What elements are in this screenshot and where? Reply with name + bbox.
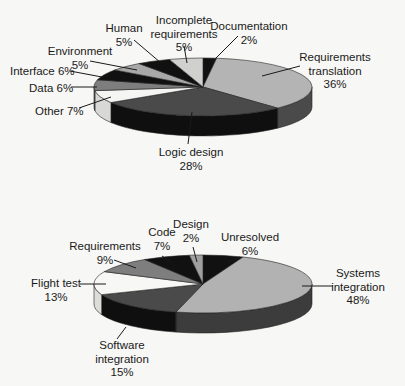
slice-label-flight-test: Flight test13% [31,277,82,303]
slice-label-systems-integration: Systemsintegration48% [331,267,385,306]
slice-label-requirements: Requirements9% [69,240,141,266]
leader-line-documentation [212,36,238,62]
slice-label-code: Code7% [148,226,176,252]
leader-line-software-integration [117,327,126,339]
pie-top-faces [94,58,312,116]
pie-chart-error-discovery: Unresolved6%Systemsintegration48%Softwar… [31,218,385,378]
slice-label-unresolved: Unresolved6% [221,231,279,257]
pie-chart-error-sources: Documentation2%Requirementstranslation36… [10,14,371,172]
slice-label-interface: Interface 6% [10,65,75,77]
slice-label-other: Other 7% [35,105,84,117]
pie-top-faces [94,255,312,313]
leader-line-interface [70,71,102,77]
slice-label-documentation: Documentation2% [210,20,287,46]
slice-label-incomplete-requirements: Incompleterequirements5% [150,14,217,53]
slice-label-design: Design2% [173,218,209,244]
slice-label-software-integration: Softwareintegration15% [95,339,149,378]
slice-label-data: Data 6% [29,82,73,94]
pie-charts: Documentation2%Requirementstranslation36… [0,0,405,386]
leader-line-human [134,40,161,63]
slice-label-logic-design: Logic design28% [159,146,224,172]
slice-label-human: Human5% [105,22,142,48]
